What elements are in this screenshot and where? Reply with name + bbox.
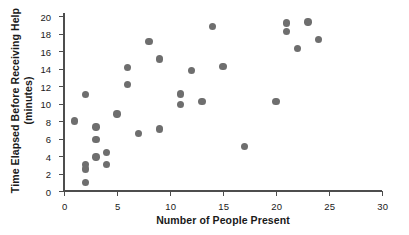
y-tick-label: 0: [46, 186, 51, 197]
data-point: [92, 123, 99, 130]
y-axis-title-line1: Time Elapsed Before Receiving Help: [10, 7, 22, 192]
y-tick-label: 6: [46, 134, 51, 145]
x-tick-label: 15: [218, 201, 229, 212]
y-axis-line: [63, 13, 65, 192]
y-tick-label: 4: [46, 151, 51, 162]
x-axis-title: Number of People Present: [64, 214, 382, 226]
data-point: [82, 91, 89, 98]
data-point: [124, 81, 131, 88]
y-tick: 4: [59, 156, 64, 157]
data-point: [283, 28, 290, 35]
data-point: [103, 161, 110, 168]
data-point: [103, 149, 110, 156]
data-point: [156, 125, 163, 132]
y-tick: 8: [59, 121, 64, 122]
data-point: [135, 130, 142, 137]
x-tick-label: 30: [377, 201, 388, 212]
x-tick: 0: [64, 191, 65, 196]
x-tick-label: 20: [271, 201, 282, 212]
data-point: [294, 45, 301, 52]
data-point: [177, 90, 184, 97]
y-tick: 2: [59, 174, 64, 175]
y-tick-label: 18: [40, 29, 51, 40]
y-tick: 12: [59, 86, 64, 87]
data-point: [283, 19, 290, 26]
data-point: [198, 98, 205, 105]
y-tick: 14: [59, 69, 64, 70]
data-point: [177, 101, 184, 108]
data-point: [188, 67, 195, 74]
scatter-chart-figure: Time Elapsed Before Receiving Help (minu…: [0, 0, 409, 235]
x-tick-label: 5: [115, 201, 120, 212]
data-point: [241, 143, 248, 150]
data-point: [113, 110, 120, 117]
x-tick-label: 0: [62, 201, 67, 212]
data-point: [82, 179, 89, 186]
x-tick: 20: [276, 191, 277, 196]
data-point: [219, 63, 226, 70]
data-point: [71, 117, 78, 124]
y-tick-label: 8: [46, 116, 51, 127]
data-point: [304, 18, 311, 25]
y-tick: 10: [59, 104, 64, 105]
data-point: [209, 23, 216, 30]
y-tick: 20: [59, 16, 64, 17]
y-tick: 18: [59, 34, 64, 35]
y-tick-label: 20: [40, 11, 51, 22]
data-point: [145, 38, 152, 45]
y-tick-label: 14: [40, 64, 51, 75]
data-point: [82, 165, 89, 172]
y-tick-label: 16: [40, 46, 51, 57]
data-point: [156, 55, 163, 62]
data-point: [92, 136, 99, 143]
x-tick: 10: [170, 191, 171, 196]
y-axis-title-text: Time Elapsed Before Receiving Help (minu…: [10, 7, 35, 192]
plot-area: 02468101214161820 051015202530: [64, 16, 382, 191]
y-tick-label: 12: [40, 81, 51, 92]
x-tick-label: 25: [324, 201, 335, 212]
data-point: [315, 36, 322, 43]
y-tick-label: 2: [46, 169, 51, 180]
y-tick: 16: [59, 51, 64, 52]
data-point: [92, 153, 99, 160]
x-tick: 15: [223, 191, 224, 196]
x-tick-label: 10: [165, 201, 176, 212]
y-axis-title-line2: (minutes): [22, 7, 35, 192]
x-tick: 5: [117, 191, 118, 196]
x-tick: 30: [382, 191, 383, 196]
data-point: [124, 64, 131, 71]
y-tick-label: 10: [40, 99, 51, 110]
y-axis-title: Time Elapsed Before Receiving Help (minu…: [0, 0, 44, 200]
data-point: [272, 98, 279, 105]
x-tick: 25: [329, 191, 330, 196]
y-tick: 6: [59, 139, 64, 140]
